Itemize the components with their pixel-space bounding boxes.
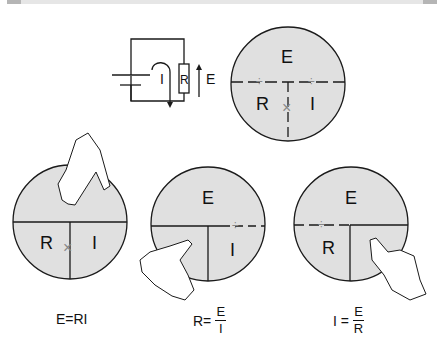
panel-i-circle: E R ÷: [294, 167, 426, 300]
formula-r-fraction: E I: [215, 305, 226, 336]
formula-r-lhs: R=: [193, 313, 211, 329]
formula-i-fraction: E R: [353, 305, 364, 336]
voltage-label: E: [206, 71, 215, 87]
panel-i-top-label: E: [345, 188, 357, 208]
multiply-icon: ×: [63, 239, 72, 256]
main-i-label: I: [310, 94, 315, 114]
formula-e: E=RI: [56, 311, 88, 327]
formula-i-lhs: I =: [333, 313, 349, 329]
formula-r: R= E I: [193, 305, 226, 336]
divide-icon: ÷: [232, 219, 239, 233]
formula-r-numerator: E: [216, 305, 225, 319]
panel-i-r-label: R: [322, 238, 335, 258]
formula-i: I = E R: [333, 305, 364, 336]
formula-e-text: E=RI: [56, 311, 88, 327]
ohms-law-diagram: I R E E R I ÷ ÷ × E R I × E I ÷: [0, 0, 445, 344]
pointing-hand-icon: [140, 240, 194, 300]
multiply-icon: ×: [282, 99, 291, 116]
panel-e-i-label: I: [92, 233, 97, 253]
formula-i-numerator: E: [354, 305, 363, 319]
formula-r-denominator: I: [219, 322, 223, 336]
main-e-label: E: [281, 47, 293, 67]
divide-icon: ÷: [256, 75, 263, 89]
panel-r-top-label: E: [202, 188, 214, 208]
panel-r-i-label: I: [230, 240, 235, 260]
divide-icon: ÷: [318, 218, 325, 232]
main-r-label: R: [256, 94, 269, 114]
panel-e-r-label: R: [40, 233, 53, 253]
panel-e-circle: E R I ×: [13, 133, 127, 279]
current-label: I: [160, 71, 164, 87]
panel-r-circle: E I ÷: [140, 167, 265, 300]
formula-i-denominator: R: [354, 322, 363, 336]
resistor-label: R: [180, 73, 189, 87]
divide-icon: ÷: [308, 75, 315, 89]
main-circle: E R I ÷ ÷ ×: [231, 27, 345, 141]
